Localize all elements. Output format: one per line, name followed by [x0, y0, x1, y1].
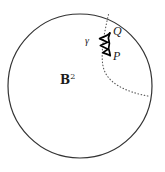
figure-container: Q P γ B2 [0, 0, 165, 172]
boundary-circle [8, 14, 152, 158]
gamma-curve [100, 33, 111, 55]
point-q-marker [109, 32, 111, 34]
domain-label: B2 [60, 73, 75, 86]
gamma-label: γ [85, 36, 89, 46]
point-q-label: Q [113, 25, 122, 37]
domain-base-letter: B [60, 73, 70, 87]
domain-exponent: 2 [70, 72, 75, 81]
figure-canvas [0, 0, 165, 172]
point-p-label: P [113, 50, 120, 62]
point-p-marker [109, 55, 111, 57]
